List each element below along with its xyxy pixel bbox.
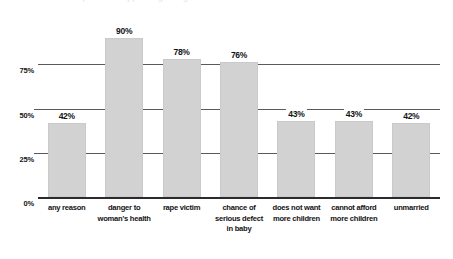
category-label-line: danger to bbox=[95, 203, 152, 214]
category-label-line: any reason bbox=[38, 203, 95, 214]
category-label-line: unmarried bbox=[383, 203, 440, 214]
x-axis-category-label: chance ofserious defectin baby bbox=[210, 203, 267, 235]
bar[interactable] bbox=[277, 121, 315, 197]
x-axis-category-label: unmarried bbox=[383, 203, 440, 214]
x-axis-category-labels: any reasondanger towoman's healthrape vi… bbox=[38, 203, 440, 255]
category-label-line: woman's health bbox=[95, 214, 152, 225]
bar-slot: 76% bbox=[220, 20, 258, 197]
bar[interactable] bbox=[48, 123, 86, 197]
category-label-line: rape victim bbox=[153, 203, 210, 214]
bar-value-label: 43% bbox=[344, 109, 364, 119]
bar[interactable] bbox=[335, 121, 373, 197]
x-axis-category-label: any reason bbox=[38, 203, 95, 214]
bar-chart: respondents approving of legal abortion … bbox=[0, 0, 453, 259]
bar-slot: 42% bbox=[392, 20, 430, 197]
cropped-title-text: respondents approving of legal abortion … bbox=[70, 0, 249, 2]
plot-area: 0%25%50%75% 42%90%78%76%43%43%42% bbox=[38, 20, 440, 197]
bars-group: 42%90%78%76%43%43%42% bbox=[38, 20, 440, 197]
x-axis-baseline bbox=[38, 197, 440, 199]
y-axis-tick-75: 75% bbox=[0, 59, 34, 77]
x-axis-category-label: does not wantmore children bbox=[268, 203, 325, 224]
bar-slot: 78% bbox=[163, 20, 201, 197]
bar-slot: 42% bbox=[48, 20, 86, 197]
y-axis-tick-label: 75% bbox=[20, 66, 34, 75]
bar-slot: 43% bbox=[277, 20, 315, 197]
category-label-line: does not want bbox=[268, 203, 325, 214]
bar[interactable] bbox=[105, 38, 143, 197]
category-label-line: more children bbox=[268, 214, 325, 225]
category-label-line: cannot afford bbox=[325, 203, 382, 214]
bar[interactable] bbox=[220, 62, 258, 197]
y-axis-tick-label: 50% bbox=[20, 111, 34, 120]
category-label-line: more children bbox=[325, 214, 382, 225]
x-axis-category-label: cannot affordmore children bbox=[325, 203, 382, 224]
y-axis-tick-label: 25% bbox=[20, 155, 34, 164]
y-axis-tick-0: 0% bbox=[0, 192, 34, 210]
y-axis-tick-label: 0% bbox=[24, 199, 34, 208]
y-axis-tick-25: 25% bbox=[0, 148, 34, 166]
category-label-line: in baby bbox=[210, 224, 267, 235]
cropped-title-strip: respondents approving of legal abortion … bbox=[0, 0, 453, 9]
bar-value-label: 90% bbox=[114, 26, 134, 36]
bar-value-label: 76% bbox=[229, 50, 249, 60]
bar-value-label: 42% bbox=[57, 111, 77, 121]
x-axis-category-label: danger towoman's health bbox=[95, 203, 152, 224]
category-label-line: chance of bbox=[210, 203, 267, 214]
bar-slot: 90% bbox=[105, 20, 143, 197]
y-axis-tick-50: 50% bbox=[0, 104, 34, 122]
bar[interactable] bbox=[392, 123, 430, 197]
bar-slot: 43% bbox=[335, 20, 373, 197]
bar-value-label: 78% bbox=[172, 47, 192, 57]
bar-value-label: 42% bbox=[401, 111, 421, 121]
category-label-line: serious defect bbox=[210, 214, 267, 225]
x-axis-category-label: rape victim bbox=[153, 203, 210, 214]
bar[interactable] bbox=[163, 59, 201, 197]
bar-value-label: 43% bbox=[286, 109, 306, 119]
